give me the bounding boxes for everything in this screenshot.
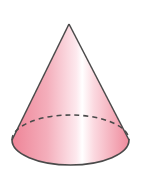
cone-diagram	[0, 0, 142, 180]
cone-surface	[12, 24, 129, 165]
cone-figure	[0, 0, 142, 180]
